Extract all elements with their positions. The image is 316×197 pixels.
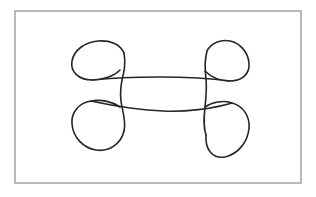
border-rectangle bbox=[15, 11, 301, 183]
knot-diagram-svg bbox=[0, 0, 316, 197]
figure-canvas bbox=[0, 0, 316, 197]
